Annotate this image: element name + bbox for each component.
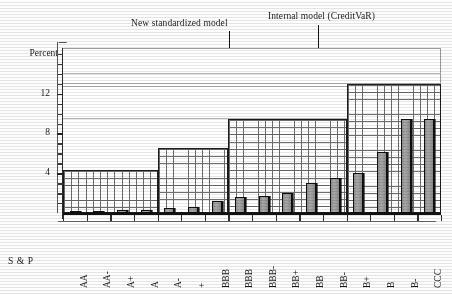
x-tick-6 (205, 215, 206, 221)
annotation-new-standardized-model: New standardized model (131, 18, 228, 28)
x-tick-12 (347, 215, 348, 221)
x-tick-1 (87, 215, 88, 221)
x-label-B-13: B (386, 282, 396, 288)
x-tick-16 (441, 215, 442, 221)
x-tick-13 (370, 215, 371, 221)
x-tick-9 (276, 215, 277, 221)
internal-bar-BB- (330, 178, 340, 213)
x-label-B+-12: B+ (362, 276, 372, 288)
x-axis-title: S & P (8, 256, 34, 266)
y-axis-label-8: 8 (16, 127, 50, 137)
x-tick-14 (394, 215, 395, 221)
internal-bar-B+ (353, 173, 363, 213)
internal-bar-BBB (235, 197, 245, 213)
x-label-BB--11: BB- (339, 272, 349, 288)
x-tick-10 (299, 215, 300, 221)
internal-bar-BBB- (259, 196, 269, 213)
standardized-step-AA (63, 170, 158, 213)
x-tick-5 (181, 215, 182, 221)
x-label-BBB--8: BBB- (268, 266, 278, 288)
y-axis-label-4: 4 (16, 167, 50, 177)
y-axis-label-12: 12 (16, 88, 50, 98)
x-label-A--4: A- (173, 278, 183, 288)
internal-bar-B (377, 152, 387, 213)
chart-figure: New standardized model Internal model (C… (0, 0, 452, 294)
y-axis-title: Percent (10, 48, 58, 58)
internal-bar-BB (306, 183, 316, 213)
x-axis (63, 213, 445, 225)
x-tick-4 (158, 215, 159, 221)
internal-bar-B- (401, 119, 411, 213)
annotation-internal-model: Internal model (CreditVaR) (268, 11, 375, 21)
x-label-B--14: B- (410, 279, 420, 289)
x-tick-11 (323, 215, 324, 221)
x-label-+-5: + (197, 283, 207, 288)
x-label-BB-10: BB (315, 275, 325, 288)
x-label-A+-2: A+ (126, 276, 136, 288)
x-label-A-3: A (150, 281, 160, 288)
x-label-BBB-7: BBB (244, 269, 254, 288)
x-label-AA--1: AA- (102, 271, 112, 288)
x-label-BBB-6: BBB (221, 269, 231, 288)
x-tick-15 (417, 215, 418, 221)
gridline-3 (63, 73, 441, 74)
y-axis-back-spine (57, 42, 58, 213)
x-tick-8 (252, 215, 253, 221)
internal-bar-CCC (424, 119, 434, 213)
plot-area (63, 48, 441, 213)
internal-bar-BBB (212, 201, 222, 213)
x-tick-3 (134, 215, 135, 221)
x-label-AA-0: AA (79, 274, 89, 288)
x-tick-0 (63, 215, 64, 221)
x-axis-front-lip (58, 215, 441, 222)
x-label-BB+-9: BB+ (291, 270, 301, 288)
x-tick-7 (228, 215, 229, 221)
internal-bar-BB+ (282, 193, 292, 213)
x-label-CCC-15: CCC (433, 269, 443, 288)
x-tick-2 (110, 215, 111, 221)
